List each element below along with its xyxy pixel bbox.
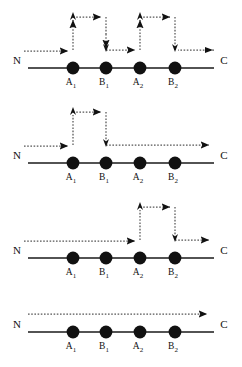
residue-label-b2: B2 — [168, 341, 178, 354]
terminus-n-label: N — [13, 318, 21, 330]
figure-container: N C A1 B1 A2 B2 N C A1 B1 — [0, 0, 242, 367]
arrowhead-left-c — [205, 47, 213, 53]
residue-a2-dot — [134, 157, 147, 170]
panel-double-loop: N C A1 B1 A2 B2 — [0, 0, 242, 95]
terminus-c-label: C — [220, 244, 227, 256]
arrowhead-down-b2 — [172, 44, 178, 52]
residue-label-a2: A2 — [133, 172, 144, 185]
residue-label-a2: A2 — [133, 341, 144, 354]
residue-label-b1: B1 — [99, 172, 109, 185]
residue-label-b2: B2 — [168, 267, 178, 280]
residue-a1-dot — [67, 157, 80, 170]
residue-a1-dot — [67, 252, 80, 265]
residue-a2-dot — [134, 326, 147, 339]
residue-label-a1: A1 — [66, 172, 77, 185]
residue-b1-dot — [100, 62, 113, 75]
residue-label-b1: B1 — [99, 77, 109, 90]
residue-a2-dot — [134, 62, 147, 75]
residue-a1-dot — [67, 326, 80, 339]
terminus-c-label: C — [220, 54, 227, 66]
arrowhead-down-b1 — [103, 139, 109, 147]
residue-label-a1: A1 — [66, 77, 77, 90]
panel-first-loop-only: N C A1 B1 A2 B2 — [0, 95, 242, 190]
residue-b2-dot — [169, 62, 182, 75]
terminus-n-label: N — [13, 149, 21, 161]
residue-a2-dot — [134, 252, 147, 265]
arrowhead-up-a1 — [70, 107, 76, 115]
terminus-c-label: C — [220, 149, 227, 161]
arrowhead-up-a1 — [70, 12, 76, 20]
residue-b2-dot — [169, 326, 182, 339]
panel-4-svg: N C A1 B1 A2 B2 — [0, 285, 242, 367]
arrowhead-up-a2 — [137, 202, 143, 210]
residue-b1-dot — [100, 157, 113, 170]
residue-label-a1: A1 — [66, 267, 77, 280]
arrowhead-down-b2 — [172, 234, 178, 242]
residue-label-b1: B1 — [99, 341, 109, 354]
residue-a1-dot — [67, 62, 80, 75]
panel-no-loop: N C A1 B1 A2 B2 — [0, 285, 242, 367]
panel-2-svg: N C A1 B1 A2 B2 — [0, 95, 242, 190]
residue-b1-dot — [100, 252, 113, 265]
residue-label-b2: B2 — [168, 77, 178, 90]
residue-label-a1: A1 — [66, 341, 77, 354]
residue-label-b1: B1 — [99, 267, 109, 280]
terminus-n-label: N — [13, 54, 21, 66]
residue-label-a2: A2 — [133, 77, 144, 90]
residue-label-a2: A2 — [133, 267, 144, 280]
panel-1-svg: N C A1 B1 A2 B2 — [0, 0, 242, 95]
residue-b2-dot — [169, 252, 182, 265]
residue-b1-dot — [100, 326, 113, 339]
terminus-c-label: C — [220, 318, 227, 330]
residue-b2-dot — [169, 157, 182, 170]
panel-3-svg: N C A1 B1 A2 B2 — [0, 190, 242, 285]
residue-label-b2: B2 — [168, 172, 178, 185]
terminus-n-label: N — [13, 244, 21, 256]
arrowhead-up-a2 — [137, 12, 143, 20]
panel-second-loop-only: N C A1 B1 A2 B2 — [0, 190, 242, 285]
